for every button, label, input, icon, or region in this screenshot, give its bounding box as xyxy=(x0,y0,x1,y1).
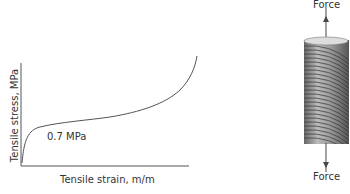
specimen-cylinder xyxy=(304,8,349,172)
force-bottom-label: Force xyxy=(313,171,340,182)
y-axis-label: Tensile stress, MPa xyxy=(9,66,20,166)
x-axis-label: Tensile strain, m/m xyxy=(60,174,155,185)
annotation-label: 0.7 MPa xyxy=(47,131,86,142)
diagram-canvas xyxy=(0,0,350,194)
chart xyxy=(21,56,197,166)
force-top-label: Force xyxy=(313,0,340,10)
stress-strain-curve xyxy=(22,56,197,163)
arrow-down-icon xyxy=(323,162,329,168)
arrow-up-icon xyxy=(323,16,329,22)
